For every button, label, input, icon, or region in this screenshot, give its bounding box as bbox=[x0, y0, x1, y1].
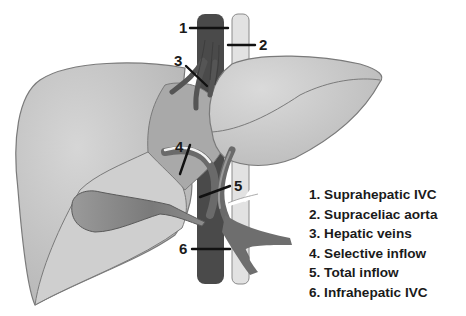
legend: 1. Suprahepatic IVC 2. Supraceliac aorta… bbox=[309, 185, 466, 302]
legend-item-supraceliac-aorta: 2. Supraceliac aorta bbox=[309, 205, 466, 225]
marker-6: 6 bbox=[179, 240, 187, 257]
marker-3: 3 bbox=[174, 52, 182, 69]
marker-5: 5 bbox=[234, 177, 242, 194]
marker-2: 2 bbox=[259, 36, 267, 53]
legend-item-infrahepatic-ivc: 6. Infrahepatic IVC bbox=[309, 283, 466, 303]
legend-item-hepatic-veins: 3. Hepatic veins bbox=[309, 224, 466, 244]
marker-4: 4 bbox=[175, 138, 184, 155]
marker-1: 1 bbox=[179, 19, 187, 36]
legend-item-suprahepatic-ivc: 1. Suprahepatic IVC bbox=[309, 185, 466, 205]
legend-item-selective-inflow: 4. Selective inflow bbox=[309, 244, 466, 264]
legend-item-total-inflow: 5. Total inflow bbox=[309, 263, 466, 283]
